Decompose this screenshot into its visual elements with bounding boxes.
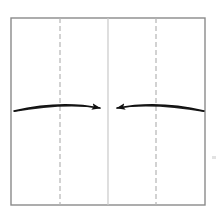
diagram-canvas [0, 0, 221, 215]
origami-diagram: Origami fold step: fold both side edges … [0, 0, 221, 215]
scan-artifact-speck [212, 156, 216, 159]
